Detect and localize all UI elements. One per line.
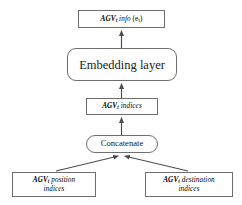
diagram-canvas: AGVt info (et) Embedding layer AGVt indi… <box>0 0 242 205</box>
edge-position-to-concatenate <box>56 156 119 171</box>
node-embedding-layer-label: Embedding layer <box>79 58 165 72</box>
node-agv-info-label: AGVt info (et) <box>101 15 143 24</box>
node-embedding-layer[interactable]: Embedding layer <box>67 48 177 81</box>
node-agv-indices-label: AGVt indices <box>102 102 142 111</box>
node-concatenate[interactable]: Concatenate <box>86 135 158 153</box>
node-agv-position-indices-label: AGVt positionindices <box>33 176 76 193</box>
node-agv-destination-indices[interactable]: AGVt destinationindices <box>145 172 233 197</box>
node-concatenate-label: Concatenate <box>101 139 143 149</box>
node-agv-info[interactable]: AGVt info (et) <box>78 10 165 28</box>
edge-destination-to-concatenate <box>125 156 189 171</box>
node-agv-indices[interactable]: AGVt indices <box>86 98 158 115</box>
node-agv-position-indices[interactable]: AGVt positionindices <box>12 172 96 197</box>
node-agv-destination-indices-label: AGVt destinationindices <box>163 176 215 193</box>
